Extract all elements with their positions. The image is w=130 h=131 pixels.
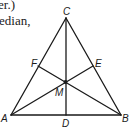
side-bc	[66, 18, 121, 115]
label-d: D	[62, 118, 69, 129]
label-a: A	[0, 113, 8, 124]
label-f: F	[31, 58, 38, 69]
centroid-point	[64, 80, 68, 84]
triangle-diagram: C A B D E F M	[0, 0, 130, 131]
label-c: C	[63, 6, 71, 17]
label-e: E	[95, 58, 102, 69]
label-b: B	[122, 113, 129, 124]
label-m: M	[55, 87, 64, 98]
